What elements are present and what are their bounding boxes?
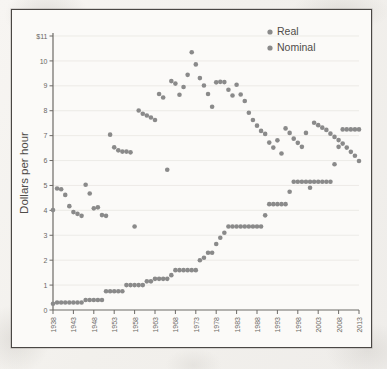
figure-frame: $111098765432101938194319481953195819631… [11,9,372,348]
data-point [71,300,76,305]
data-point [185,73,190,78]
data-point [173,268,178,273]
data-point [104,214,109,219]
data-point [304,179,309,184]
data-point [202,83,207,88]
data-point [63,300,68,305]
data-point [169,273,174,278]
x-tick-label: 1968 [172,317,179,333]
data-point [96,298,101,303]
data-point [242,224,247,229]
x-tick-label: 1953 [111,317,118,333]
data-point [149,115,154,120]
data-point [300,145,305,150]
data-point [324,179,329,184]
data-point [79,214,84,219]
data-point [279,151,284,156]
legend-dot-nominal[interactable] [267,45,272,50]
data-point [296,179,301,184]
data-point [198,258,203,263]
data-point [279,202,284,207]
x-tick-label: 1978 [213,317,220,333]
data-point [247,224,252,229]
data-point [328,131,333,136]
data-point [275,202,280,207]
data-point [63,193,68,198]
data-point [214,80,219,85]
data-point [332,135,337,140]
data-point [267,140,272,145]
data-point [234,224,239,229]
data-point [108,132,113,137]
data-point [320,179,325,184]
data-point [287,189,292,194]
data-point [287,131,292,136]
x-tick-label: 1993 [274,317,281,333]
data-point [349,127,354,132]
data-point [320,125,325,130]
data-point [165,277,170,282]
data-point [51,208,56,213]
y-tick-label: 6 [44,157,48,164]
data-point [55,300,60,305]
data-point [238,224,243,229]
data-point [230,224,235,229]
data-point [51,301,56,306]
legend-label-real[interactable]: Real [277,25,299,37]
legend-dot-real[interactable] [267,29,272,34]
data-point [104,289,109,294]
y-tick-label: 3 [44,232,48,239]
data-point [153,118,158,123]
data-point [112,145,117,150]
data-point [340,141,345,146]
data-point [234,83,239,88]
data-point [83,298,88,303]
data-point [218,80,223,85]
data-point [120,149,125,154]
data-point [112,289,117,294]
y-tick-label: 5 [44,182,48,189]
y-tick-label: 9 [44,82,48,89]
data-point [165,167,170,172]
data-point [308,185,313,190]
data-point [108,289,113,294]
data-point [198,76,203,81]
data-point [181,268,186,273]
y-axis-title: Dollars per hour [18,132,30,214]
data-point [349,150,354,155]
data-point [247,110,252,115]
data-point [145,279,150,284]
data-point [194,62,199,67]
data-point [71,210,76,215]
data-point [132,224,137,229]
y-tick-label: $11 [36,33,47,40]
data-point [181,85,186,90]
data-point [116,289,121,294]
data-point [304,131,309,136]
legend-label-nominal[interactable]: Nominal [277,41,316,53]
x-tick-label: 1988 [254,317,261,333]
data-point [136,108,141,113]
data-point [324,128,329,133]
x-tick-label: 1973 [193,317,200,333]
data-point [157,277,162,282]
data-point [59,300,64,305]
data-point [263,213,268,218]
series-nominal [51,127,362,306]
data-point [271,145,276,150]
data-point [128,283,133,288]
data-point [83,182,88,187]
y-tick-label: 8 [44,107,48,114]
data-point [271,202,276,207]
data-point [206,250,211,255]
data-point [340,127,345,132]
data-point [189,268,194,273]
data-point [136,283,141,288]
data-point [87,191,92,196]
data-point [157,92,162,97]
data-point [100,298,105,303]
data-point [214,242,219,247]
x-tick-label: 2013 [356,317,363,333]
data-point [161,95,166,100]
data-point [153,277,158,282]
